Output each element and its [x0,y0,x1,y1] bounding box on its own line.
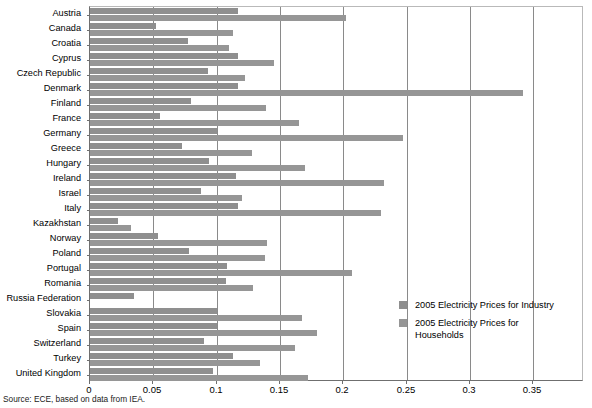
bar-row-cyprus [90,52,582,67]
bar-row-canada [90,22,582,37]
legend-label: 2005 Electricity Prices for Households [415,318,519,341]
category-label-denmark: Denmark [44,83,81,93]
legend-entry-industry: 2005 Electricity Prices for Industry [399,299,559,312]
bar-row-czech-republic [90,67,582,82]
bar-industry-poland [90,248,189,254]
bar-industry-croatia [90,38,188,44]
bar-households-denmark [90,90,523,96]
bar-industry-switzerland [90,338,204,344]
bar-row-greece [90,142,582,157]
bar-households-croatia [90,45,229,51]
bar-industry-greece [90,143,182,149]
bar-industry-cyprus [90,53,238,59]
category-label-poland: Poland [52,248,81,258]
bar-households-portugal [90,270,352,276]
bar-households-turkey [90,360,260,366]
bar-households-united-kingdom [90,375,308,381]
bar-households-kazakhstan [90,225,131,231]
bar-industry-norway [90,233,158,239]
x-tick-label-0.35: 0.35 [523,384,542,396]
bar-row-france [90,112,582,127]
bar-households-romania [90,285,253,291]
bar-industry-hungary [90,158,209,164]
bar-industry-finland [90,98,191,104]
bar-industry-slovakia [90,308,217,314]
bar-row-israel [90,187,582,202]
bar-households-slovakia [90,315,302,321]
bar-row-denmark [90,82,582,97]
bar-households-spain [90,330,317,336]
category-label-greece: Greece [51,143,81,153]
bar-row-austria [90,7,582,22]
category-axis: AustriaCanadaCroatiaCyprusCzech Republic… [0,6,85,381]
bar-industry-romania [90,278,226,284]
bar-industry-czech-republic [90,68,208,74]
bar-industry-russia-federation [90,293,134,299]
chart-legend: 2005 Electricity Prices for Industry2005… [399,299,559,347]
electricity-prices-bar-chart: AustriaCanadaCroatiaCyprusCzech Republic… [0,0,592,408]
x-tick-label-0.3: 0.3 [462,384,475,396]
bar-row-norway [90,232,582,247]
source-note: Source: ECE, based on data from IEA. [3,394,145,405]
bar-households-austria [90,15,346,21]
category-label-italy: Italy [64,203,81,213]
bar-households-ireland [90,180,384,186]
legend-swatch-icon [399,301,407,309]
category-label-ireland: Ireland [53,173,81,183]
category-label-slovakia: Slovakia [46,308,81,318]
bar-row-portugal [90,262,582,277]
bar-industry-italy [90,203,238,209]
bar-households-poland [90,255,265,261]
category-label-croatia: Croatia [51,38,81,48]
category-label-romania: Romania [44,278,81,288]
bar-households-germany [90,135,403,141]
category-label-russia-federation: Russia Federation [6,293,81,303]
category-label-switzerland: Switzerland [34,338,82,348]
x-tick-label-0.25: 0.25 [397,384,416,396]
bar-industry-austria [90,8,238,14]
legend-label: 2005 Electricity Prices for Industry [415,300,554,310]
bar-households-norway [90,240,267,246]
bar-row-united-kingdom [90,367,582,382]
category-label-czech-republic: Czech Republic [17,68,81,78]
x-axis: 00.050.10.150.20.250.30.35 [89,381,583,399]
bar-households-czech-republic [90,75,245,81]
category-label-hungary: Hungary [46,158,81,168]
bar-row-hungary [90,157,582,172]
category-label-turkey: Turkey [53,353,81,363]
bar-households-israel [90,195,242,201]
category-label-norway: Norway [50,233,81,243]
bar-households-cyprus [90,60,274,66]
category-label-spain: Spain [58,323,82,333]
bar-row-italy [90,202,582,217]
category-label-portugal: Portugal [47,263,81,273]
category-label-france: France [52,113,81,123]
bar-households-france [90,120,299,126]
bar-households-italy [90,210,381,216]
x-tick-label-0.05: 0.05 [143,384,162,396]
category-label-finland: Finland [51,98,81,108]
bar-industry-spain [90,323,217,329]
category-label-canada: Canada [49,23,81,33]
bar-households-hungary [90,165,305,171]
x-tick-label-0.15: 0.15 [270,384,289,396]
bar-row-poland [90,247,582,262]
x-tick-label-0.1: 0.1 [209,384,222,396]
bar-row-finland [90,97,582,112]
bar-households-canada [90,30,233,36]
bar-industry-portugal [90,263,227,269]
legend-swatch-icon [399,319,407,327]
legend-entry-households: 2005 Electricity Prices for Households [399,317,559,342]
category-label-kazakhstan: Kazakhstan [33,218,81,228]
bar-industry-united-kingdom [90,368,213,374]
bar-industry-ireland [90,173,236,179]
bar-row-ireland [90,172,582,187]
bar-industry-germany [90,128,217,134]
category-label-israel: Israel [59,188,81,198]
category-label-austria: Austria [52,8,81,18]
category-label-cyprus: Cyprus [52,53,81,63]
bar-households-greece [90,150,252,156]
bar-industry-israel [90,188,201,194]
bar-row-germany [90,127,582,142]
axis-tick [87,300,90,301]
